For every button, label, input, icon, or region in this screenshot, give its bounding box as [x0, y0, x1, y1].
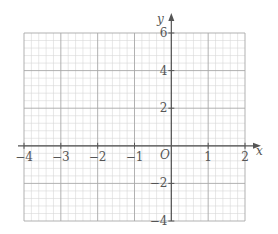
coordinate-grid: −4−3−2−112−4−2246 x y O [0, 0, 278, 234]
major-grid-lines [24, 33, 245, 221]
x-tick-label: −1 [126, 150, 144, 164]
x-tick-label: −4 [15, 150, 33, 164]
y-axis-label: y [156, 12, 164, 26]
origin-label: O [160, 148, 170, 162]
y-tick-label: 4 [160, 64, 168, 78]
axes [18, 13, 261, 221]
y-tick-label: 2 [160, 101, 168, 115]
y-tick-label: 6 [160, 26, 168, 40]
y-tick-label: −4 [150, 214, 168, 228]
x-tick-label: −2 [89, 150, 107, 164]
x-tick-label: −3 [52, 150, 70, 164]
x-tick-label: 2 [241, 150, 249, 164]
y-tick-label: −2 [150, 176, 168, 190]
x-tick-label: 1 [204, 150, 212, 164]
tick-labels: −4−3−2−112−4−2246 [15, 26, 249, 228]
y-axis-arrow-icon [168, 13, 174, 21]
x-axis-label: x [256, 144, 263, 158]
